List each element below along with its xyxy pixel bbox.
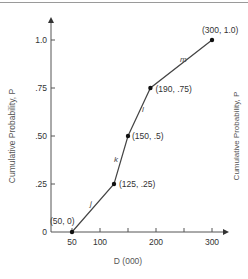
- y-tick-label: .75: [35, 83, 47, 93]
- x-tick-label: 200: [149, 237, 163, 247]
- data-point: [112, 182, 116, 186]
- cumulative-probability-chart: 0.25.50.751.0 50100200300 (50, 0)(125, .…: [0, 0, 248, 279]
- x-tick-label: 300: [205, 237, 219, 247]
- y-ticks: 0.25.50.751.0: [35, 35, 55, 237]
- x-axis-label: D (000): [114, 256, 143, 266]
- segment-label: k: [114, 155, 119, 164]
- y-axis-label-right: Cumulative Probability, P: [232, 92, 241, 181]
- data-point: [126, 134, 130, 138]
- data-point: [70, 230, 74, 234]
- point-label: (190, .75): [155, 84, 192, 94]
- x-tick-label: 100: [93, 237, 107, 247]
- point-label: (150, .5): [132, 131, 164, 141]
- segment-label: j: [89, 199, 92, 208]
- y-tick-label: 0: [42, 227, 47, 237]
- point-label: (125, .25): [119, 179, 156, 189]
- y-axis-label: Cumulative Probability, P: [7, 89, 17, 184]
- data-point: [148, 86, 152, 90]
- segment-label: l: [142, 105, 144, 114]
- x-ticks: 50100200300: [67, 228, 219, 247]
- data-point: [210, 38, 214, 42]
- point-label: (300, 1.0): [202, 25, 239, 35]
- y-tick-label: .25: [35, 179, 47, 189]
- x-tick-label: 50: [67, 237, 77, 247]
- segment-label: m: [180, 55, 187, 64]
- data-points: (50, 0)(125, .25)(150, .5)(190, .75)(300…: [50, 25, 239, 234]
- point-label: (50, 0): [50, 216, 75, 226]
- y-tick-label: 1.0: [35, 35, 47, 45]
- y-tick-label: .50: [35, 131, 47, 141]
